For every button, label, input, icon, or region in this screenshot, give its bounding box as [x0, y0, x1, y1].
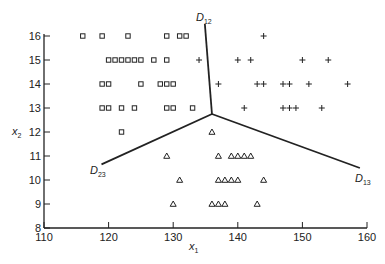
square-marker [171, 106, 175, 110]
square-marker [171, 82, 175, 86]
square-marker [119, 130, 123, 134]
plus-marker [306, 81, 312, 87]
square-marker [106, 58, 110, 62]
plus-marker [261, 33, 267, 39]
square-marker [106, 82, 110, 86]
square-marker [119, 106, 123, 110]
square-marker [132, 106, 136, 110]
plus-marker [215, 81, 221, 87]
square-marker [152, 58, 156, 62]
triangle-marker [241, 153, 247, 158]
square-marker [113, 58, 117, 62]
y-tick-label: 10 [29, 174, 41, 186]
axes: 1101201301401501608910111213141516 [29, 30, 376, 243]
decision-boundaries [101, 24, 359, 168]
plus-marker [325, 57, 331, 63]
d23-label: D23 [90, 164, 106, 178]
triangle-marker [228, 177, 234, 182]
plus-marker [345, 81, 351, 87]
triangle-marker [235, 177, 241, 182]
boundary-d12 [205, 24, 212, 114]
plus-marker [286, 81, 292, 87]
y-axis-label: x2 [11, 125, 22, 139]
square-marker [165, 82, 169, 86]
square-marker [81, 34, 85, 38]
x-tick-label: 120 [99, 231, 117, 243]
triangle-marker [164, 153, 170, 158]
triangle-marker [209, 201, 215, 206]
square-marker [132, 58, 136, 62]
plus-marker [235, 57, 241, 63]
data-points [81, 33, 351, 206]
d13-label: D13 [355, 172, 371, 186]
x-tick-label: 130 [164, 231, 182, 243]
triangle-marker [254, 201, 260, 206]
triangle-marker [248, 153, 254, 158]
square-marker [165, 58, 169, 62]
triangle-marker [222, 177, 228, 182]
y-tick-label: 15 [29, 54, 41, 66]
square-marker [100, 82, 104, 86]
triangle-marker [177, 177, 183, 182]
square-marker [126, 34, 130, 38]
square-marker [177, 34, 181, 38]
x-tick-label: 160 [358, 231, 376, 243]
square-marker [158, 82, 162, 86]
triangle-marker [215, 177, 221, 182]
y-tick-label: 14 [29, 78, 41, 90]
square-marker [165, 106, 169, 110]
y-tick-label: 12 [29, 126, 41, 138]
x-tick-label: 140 [229, 231, 247, 243]
x-tick-label: 150 [293, 231, 311, 243]
scatter-chart: 1101201301401501608910111213141516 x1 x2… [0, 0, 385, 264]
y-tick-label: 16 [29, 30, 41, 42]
square-marker [126, 58, 130, 62]
triangle-marker [215, 201, 221, 206]
triangle-marker [228, 153, 234, 158]
x-axis-label: x1 [188, 240, 199, 254]
plus-marker [280, 105, 286, 111]
triangle-marker [209, 129, 215, 134]
y-tick-label: 11 [30, 150, 41, 162]
y-tick-label: 8 [35, 222, 41, 234]
triangle-marker [215, 153, 221, 158]
triangle-marker [170, 201, 176, 206]
plus-marker [248, 57, 254, 63]
square-marker [165, 34, 169, 38]
y-tick-label: 13 [29, 102, 41, 114]
square-marker [190, 106, 194, 110]
square-marker [184, 34, 188, 38]
y-tick-label: 9 [35, 198, 41, 210]
triangle-marker [222, 201, 228, 206]
triangle-marker [235, 153, 241, 158]
plus-marker [286, 105, 292, 111]
plus-marker [299, 57, 305, 63]
boundary-d23 [101, 114, 211, 164]
plus-marker [261, 81, 267, 87]
d12-label: D12 [196, 11, 212, 25]
plus-marker [241, 105, 247, 111]
square-marker [106, 106, 110, 110]
triangle-marker [261, 177, 267, 182]
square-marker [139, 82, 143, 86]
square-marker [139, 58, 143, 62]
plus-marker [196, 57, 202, 63]
square-marker [119, 58, 123, 62]
square-marker [100, 106, 104, 110]
plus-marker [293, 105, 299, 111]
boundary-d13 [212, 114, 360, 168]
square-marker [100, 34, 104, 38]
plus-marker [254, 81, 260, 87]
plus-marker [280, 81, 286, 87]
plus-marker [319, 105, 325, 111]
